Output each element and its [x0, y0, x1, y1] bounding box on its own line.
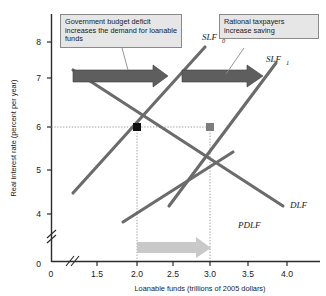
curve-label-slf1-subscript: 1 — [286, 59, 289, 66]
x-tick-labels: 0 1.5 2.0 2.5 3.0 3.5 4.0 — [49, 269, 294, 279]
x-tick-1-5: 1.5 — [91, 269, 103, 279]
y-tick-labels: 8 7 6 5 4 0 — [36, 37, 41, 269]
y-tick-8: 8 — [36, 37, 41, 47]
curve-labels: SLF 0 SLF 1 DLF PDLF — [202, 32, 308, 230]
y-tick-6: 6 — [36, 122, 41, 132]
quantity-increase-arrow — [137, 237, 211, 258]
curve-label-pdlf: PDLF — [237, 220, 261, 230]
callout-deficit: Government budget deficit increases the … — [60, 14, 182, 48]
x-axis-title: Loanable funds (trillions of 2005 dollar… — [134, 284, 265, 293]
x-tick-2-0: 2.0 — [131, 269, 143, 279]
curve-label-slf0: SLF — [202, 32, 218, 42]
x-tick-0: 0 — [49, 269, 54, 279]
equilibrium-marker-new — [206, 123, 214, 131]
curve-slf1-line — [169, 63, 276, 206]
callout-saving: Rational taxpayers increase saving — [219, 14, 319, 39]
guide-lines — [52, 127, 213, 261]
x-tick-3-0: 3.0 — [204, 269, 216, 279]
y-tick-0: 0 — [36, 259, 41, 269]
y-tick-7: 7 — [36, 73, 41, 83]
curve-label-dlf: DLF — [289, 200, 308, 210]
callout-left-leader-line — [122, 48, 128, 70]
demand-shift-arrow — [73, 65, 168, 87]
y-axis-title: Real interest rate (percent per year) — [9, 79, 18, 196]
curve-slf0-line — [73, 47, 205, 193]
equilibrium-marker-old — [133, 123, 141, 131]
supply-shift-arrow — [182, 65, 263, 87]
curve-label-slf1: SLF — [266, 54, 282, 64]
y-tick-5: 5 — [36, 165, 41, 175]
chart-figure: 8 7 6 5 4 0 0 1.5 2.0 2.5 3.0 3.5 4.0 Re… — [0, 0, 326, 296]
x-tick-3-5: 3.5 — [242, 269, 254, 279]
x-tick-2-5: 2.5 — [167, 269, 179, 279]
x-tick-4-0: 4.0 — [281, 269, 293, 279]
curve-pdlf-line — [123, 152, 233, 222]
y-tick-4: 4 — [36, 209, 41, 219]
